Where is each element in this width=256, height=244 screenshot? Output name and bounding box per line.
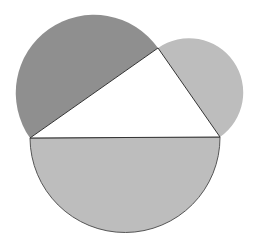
semicircles-diagram <box>0 0 256 244</box>
semicircle-ac <box>30 137 220 233</box>
